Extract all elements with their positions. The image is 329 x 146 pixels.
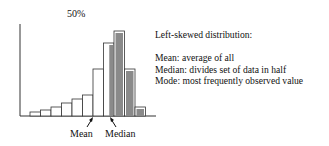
description-mean: Mean: average of all	[155, 52, 303, 64]
mean-label: Mean	[70, 128, 93, 139]
histogram-bar	[93, 69, 104, 116]
histogram-bar-shade	[126, 71, 134, 116]
histogram-bar	[83, 95, 94, 116]
description-mode: Mode: most frequently observed value	[155, 75, 303, 87]
percent-label: 50%	[67, 8, 85, 19]
histogram-bar	[51, 107, 62, 116]
bars	[30, 31, 146, 116]
histogram-plot	[0, 0, 160, 146]
histogram-bar	[72, 99, 83, 116]
median-arrow-icon	[110, 117, 116, 127]
histogram-bar	[62, 103, 73, 116]
histogram-bar-shade	[116, 33, 124, 116]
median-label: Median	[105, 128, 136, 139]
histogram-bar	[30, 112, 41, 116]
histogram-bar-shade	[109, 45, 113, 116]
description-block: Left-skewed distribution: Mean: average …	[155, 29, 303, 87]
description-median: Median: divides set of data in half	[155, 64, 303, 76]
histogram-bar-shade	[137, 109, 145, 116]
histogram-bar	[41, 110, 52, 116]
mean-arrow-icon	[87, 117, 93, 127]
description-title: Left-skewed distribution:	[155, 29, 303, 41]
